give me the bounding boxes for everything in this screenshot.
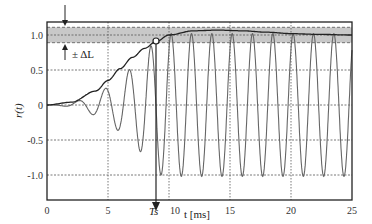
delta-l-label: ± ΔL xyxy=(72,48,94,60)
x-tick-label: 10 xyxy=(170,205,180,216)
y-axis-label: r(t) xyxy=(12,103,25,118)
ts-marker-circle xyxy=(153,38,159,44)
y-tick-label: -1.0 xyxy=(27,170,43,181)
x-tick-label: 25 xyxy=(347,205,357,216)
step-response-chart: ± ΔL -1.0-0.500.51.0 0510152025 Ts t [ms… xyxy=(0,0,372,224)
x-tick-label: 20 xyxy=(286,205,296,216)
y-tick-label: 0 xyxy=(38,100,43,111)
y-tick-label: 0.5 xyxy=(31,65,44,76)
x-tick-label: 5 xyxy=(106,205,111,216)
y-axis-ticks: -1.0-0.500.51.0 xyxy=(27,30,43,181)
y-tick-label: -0.5 xyxy=(27,135,43,146)
arrow-down-icon xyxy=(62,20,68,26)
x-axis-label: t [ms] xyxy=(184,208,210,220)
x-tick-label: 0 xyxy=(45,205,50,216)
arrow-up-icon xyxy=(62,44,68,50)
y-tick-label: 1.0 xyxy=(31,30,44,41)
ts-label: Ts xyxy=(149,205,158,217)
x-tick-label: 15 xyxy=(225,205,235,216)
